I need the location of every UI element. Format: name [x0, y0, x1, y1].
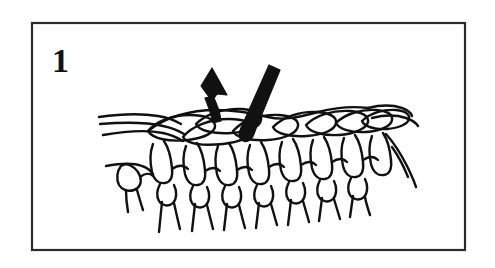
step-number: 1	[52, 42, 69, 79]
figure-canvas: 1	[0, 0, 495, 268]
